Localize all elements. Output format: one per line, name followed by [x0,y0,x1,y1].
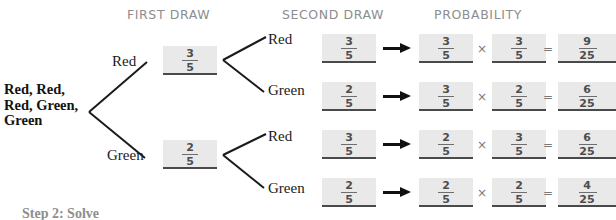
numerator: 2 [322,180,376,191]
denominator: 25 [558,98,616,109]
first-draw-probability-green: 2 5 [163,140,217,169]
first-draw-label-red: Red [112,53,136,70]
second-draw-label-green-2: Green [268,180,305,197]
factor-2-row-1: 3 5 [492,34,546,63]
numerator: 2 [163,142,217,153]
source-set-line-3: Green [4,113,90,129]
numerator: 3 [322,132,376,143]
denominator: 5 [322,146,376,157]
numerator: 3 [322,36,376,47]
numerator: 3 [492,36,546,47]
numerator: 2 [492,84,546,95]
source-set-line-1: Red, Red, [4,82,90,98]
arrow-right-icon-row-1 [383,43,411,54]
numerator: 6 [558,84,616,95]
denominator: 5 [163,156,217,167]
numerator: 9 [558,36,616,47]
denominator: 5 [419,98,473,109]
denominator: 25 [558,50,616,61]
source-set-line-2: Red, Green, [4,98,90,114]
numerator: 3 [163,48,217,59]
denominator: 5 [419,146,473,157]
denominator: 5 [492,50,546,61]
second-draw-label-red-2: Red [268,128,292,145]
arrow-right-icon-row-2 [383,91,411,102]
denominator: 5 [163,62,217,73]
second-draw-probability-row-4: 2 5 [322,178,376,207]
denominator: 5 [322,50,376,61]
source-set-label: Red, Red, Red, Green, Green [4,82,90,129]
second-draw-probability-row-2: 2 5 [322,82,376,111]
result-row-2: 6 25 [558,82,616,111]
numerator: 3 [419,84,473,95]
denominator: 5 [322,194,376,205]
factor-2-row-3: 3 5 [492,130,546,159]
numerator: 2 [419,180,473,191]
factor-2-row-2: 2 5 [492,82,546,111]
column-header-second-draw: SECOND DRAW [282,7,384,22]
arrow-right-icon-row-4 [383,187,411,198]
column-header-probability: PROBABILITY [434,7,522,22]
first-draw-probability-red: 3 5 [163,46,217,75]
multiply-symbol-row-3: × [477,138,487,152]
denominator: 5 [419,50,473,61]
arrow-right-icon-row-3 [383,139,411,150]
equals-symbol-row-2: = [543,90,553,104]
numerator: 4 [558,180,616,191]
multiply-symbol-row-4: × [477,186,487,200]
numerator: 2 [492,180,546,191]
denominator: 25 [558,194,616,205]
step-caption: Step 2: Solve [22,206,99,220]
denominator: 5 [492,194,546,205]
denominator: 5 [492,146,546,157]
numerator: 3 [419,36,473,47]
factor-1-row-3: 2 5 [419,130,473,159]
numerator: 3 [492,132,546,143]
second-draw-label-green-1: Green [268,82,305,99]
factor-1-row-4: 2 5 [419,178,473,207]
denominator: 5 [419,194,473,205]
probability-tree-diagram: FIRST DRAW SECOND DRAW PROBABILITY Red, … [0,0,616,220]
denominator: 5 [492,98,546,109]
result-row-3: 6 25 [558,130,616,159]
first-draw-label-green: Green [107,147,144,164]
equals-symbol-row-1: = [543,42,553,56]
factor-1-row-2: 3 5 [419,82,473,111]
denominator: 5 [322,98,376,109]
factor-2-row-4: 2 5 [492,178,546,207]
factor-1-row-1: 3 5 [419,34,473,63]
second-draw-label-red-1: Red [268,31,292,48]
equals-symbol-row-4: = [543,186,553,200]
result-row-4: 4 25 [558,178,616,207]
column-header-first-draw: FIRST DRAW [127,7,210,22]
second-draw-probability-row-3: 3 5 [322,130,376,159]
second-draw-probability-row-1: 3 5 [322,34,376,63]
result-row-1: 9 25 [558,34,616,63]
multiply-symbol-row-2: × [477,90,487,104]
numerator: 2 [419,132,473,143]
numerator: 6 [558,132,616,143]
denominator: 25 [558,146,616,157]
numerator: 2 [322,84,376,95]
multiply-symbol-row-1: × [477,42,487,56]
equals-symbol-row-3: = [543,138,553,152]
